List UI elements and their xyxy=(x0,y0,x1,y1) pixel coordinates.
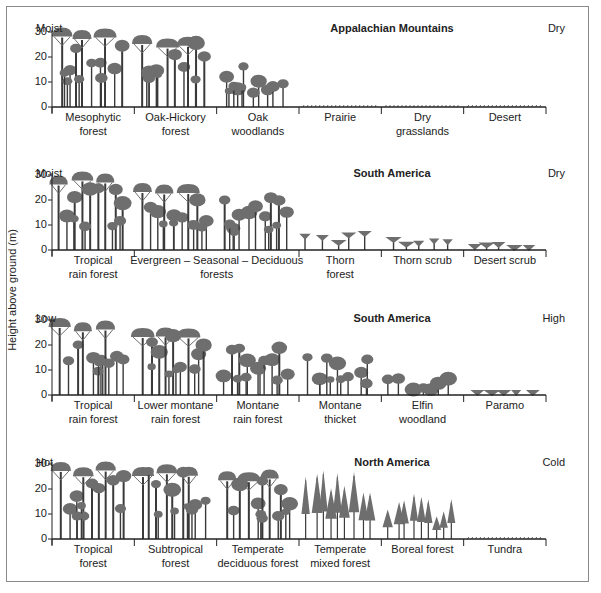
vegetation-profile-illustration xyxy=(0,0,601,593)
zone-label: Tundra xyxy=(488,542,522,556)
zone-label: Temperate mixed forest xyxy=(310,542,370,570)
zone-label: Temperate deciduous forest xyxy=(217,542,298,570)
y-tick-label: 30 xyxy=(27,457,47,469)
zone-label: Tropical forest xyxy=(74,542,113,570)
gradient-end-label: Cold xyxy=(542,456,565,468)
zone-label: Boreal forest xyxy=(391,542,453,556)
y-tick-label: 20 xyxy=(27,482,47,494)
zone-label: Subtropical forest xyxy=(148,542,203,570)
y-tick-label: 10 xyxy=(27,507,47,519)
panel-title: North America xyxy=(354,456,429,468)
profile-panel: North AmericaHotCold3020100Tropical fore… xyxy=(0,0,601,145)
y-tick-label: 0 xyxy=(27,532,47,544)
